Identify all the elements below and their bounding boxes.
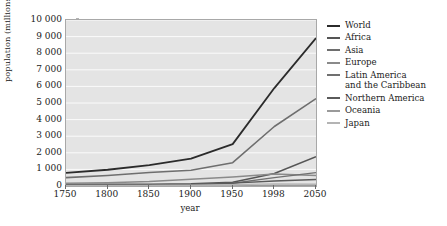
legend-color-swatch bbox=[327, 49, 340, 51]
legend-item[interactable]: Latin America and the Caribbean bbox=[327, 70, 447, 92]
legend-item-label: Africa bbox=[345, 32, 371, 43]
y-tick-label: 4 000 bbox=[14, 114, 62, 123]
legend-item[interactable]: Oceania bbox=[327, 105, 447, 116]
y-tick-label: 3 000 bbox=[14, 131, 62, 140]
y-axis-title: population (millions) bbox=[2, 0, 12, 82]
legend-item-label: Asia bbox=[345, 45, 364, 56]
x-tick-mark bbox=[190, 185, 191, 189]
legend-color-swatch bbox=[327, 37, 340, 39]
x-tick-label: 1800 bbox=[95, 190, 118, 199]
y-tick-label: 8 000 bbox=[14, 48, 62, 57]
x-tick-label: 1900 bbox=[179, 190, 202, 199]
x-tick-mark bbox=[65, 185, 66, 189]
x-tick-label: 1850 bbox=[137, 190, 160, 199]
legend-color-swatch bbox=[327, 110, 340, 112]
legend-color-swatch bbox=[327, 74, 340, 76]
legend: WorldAfricaAsiaEuropeLatin America and t… bbox=[327, 20, 447, 130]
legend-item-label: World bbox=[345, 20, 371, 31]
legend-item-label: Europe bbox=[345, 57, 377, 68]
y-tick-label: 10 000 bbox=[14, 15, 62, 24]
y-tick-label: 2 000 bbox=[14, 147, 62, 156]
y-tick-label: 1 000 bbox=[14, 164, 62, 173]
legend-item-label: Oceania bbox=[345, 105, 380, 116]
x-tick-mark bbox=[232, 185, 233, 189]
x-tick-label: 2050 bbox=[304, 190, 327, 199]
x-tick-mark bbox=[273, 185, 274, 189]
population-line-chart: population (millions) 01 0002 0003 0004 … bbox=[0, 0, 447, 226]
y-tick-label: 5 000 bbox=[14, 98, 62, 107]
y-tick-label: 7 000 bbox=[14, 64, 62, 73]
x-tick-label: 1750 bbox=[54, 190, 77, 199]
x-tick-label: 1998 bbox=[262, 190, 285, 199]
legend-item[interactable]: Northern America bbox=[327, 93, 447, 104]
series-line bbox=[66, 99, 316, 178]
x-tick-mark bbox=[148, 185, 149, 189]
legend-item-label: Northern America bbox=[345, 93, 424, 104]
legend-color-swatch bbox=[327, 62, 340, 64]
legend-item[interactable]: Africa bbox=[327, 32, 447, 43]
legend-item-label: Latin America and the Caribbean bbox=[345, 70, 426, 91]
x-tick-mark bbox=[315, 185, 316, 189]
legend-item[interactable]: Asia bbox=[327, 45, 447, 56]
plot-lines bbox=[66, 20, 316, 186]
plot-area bbox=[65, 19, 317, 187]
legend-color-swatch bbox=[327, 25, 340, 27]
legend-item[interactable]: World bbox=[327, 20, 447, 31]
legend-item-label: Japan bbox=[345, 118, 370, 129]
y-tick-label: 6 000 bbox=[14, 81, 62, 90]
x-axis-title: year bbox=[180, 203, 199, 213]
legend-color-swatch bbox=[327, 122, 340, 124]
legend-item[interactable]: Japan bbox=[327, 118, 447, 129]
y-tick-label: 9 000 bbox=[14, 31, 62, 40]
x-tick-mark bbox=[107, 185, 108, 189]
x-tick-label: 1950 bbox=[220, 190, 243, 199]
legend-item[interactable]: Europe bbox=[327, 57, 447, 68]
legend-color-swatch bbox=[327, 97, 340, 99]
